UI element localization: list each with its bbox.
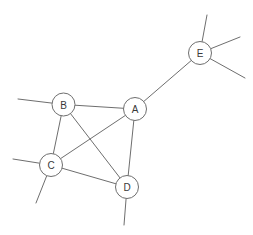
- stub-e-up: [202, 15, 207, 42]
- node-circle-a[interactable]: [124, 98, 147, 121]
- edge-a-d: [128, 120, 134, 175]
- node-circle-e[interactable]: [189, 42, 212, 65]
- node-circle-c[interactable]: [40, 154, 63, 177]
- stub-d-down: [124, 198, 126, 225]
- stub-c-left: [13, 159, 40, 163]
- stub-c-downleft: [36, 176, 47, 203]
- edge-a-e: [144, 61, 192, 102]
- edge-b-a: [75, 105, 124, 108]
- graph-svg: ABCDE: [0, 0, 253, 235]
- graph-node-b[interactable]: B: [52, 93, 75, 116]
- graph-node-e[interactable]: E: [189, 42, 212, 65]
- graph-node-c[interactable]: C: [40, 154, 63, 177]
- edge-layer: [53, 61, 191, 184]
- edge-c-a: [61, 115, 126, 158]
- node-circle-b[interactable]: [52, 93, 75, 116]
- stub-b-left: [18, 99, 52, 103]
- graph-canvas: ABCDE: [0, 0, 253, 235]
- node-circle-d[interactable]: [116, 176, 139, 199]
- stub-e-downright: [210, 59, 245, 78]
- edge-b-d: [71, 114, 120, 178]
- graph-node-d[interactable]: D: [116, 176, 139, 199]
- graph-node-a[interactable]: A: [124, 98, 147, 121]
- stub-e-upright: [211, 37, 240, 49]
- edge-b-c: [53, 116, 61, 154]
- edge-c-d: [62, 168, 116, 184]
